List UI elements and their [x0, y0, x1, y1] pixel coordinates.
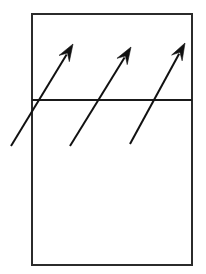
canvas-background — [0, 0, 206, 274]
figure-canvas — [0, 0, 206, 274]
